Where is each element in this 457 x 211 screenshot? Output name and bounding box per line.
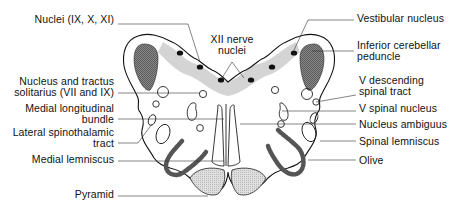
label-line: Nuclei (IX, X, XI): [35, 14, 114, 25]
label-line: Vestibular nucleus: [357, 13, 444, 24]
label-medial-lemniscus: Medial lemniscus: [32, 154, 114, 165]
label-olive: Olive: [359, 155, 383, 166]
label-line: Olive: [359, 155, 383, 166]
label-line: nuclei: [206, 45, 258, 56]
label-pyramid: Pyramid: [75, 189, 114, 200]
label-line: Medial lemniscus: [32, 154, 114, 165]
label-lateral-spinothalamic-tract: Lateral spinothalamic tract: [13, 127, 114, 149]
label-line: peduncle: [357, 51, 441, 62]
inferior-cerebellar-peduncle-left: [134, 44, 158, 90]
label-line: spinal tract: [359, 86, 424, 97]
label-line: Pyramid: [75, 189, 114, 200]
medial-lemniscus-central: [212, 104, 240, 166]
medulla-cross-section-diagram: Nuclei (IX, X, XI) Nucleus and tractus s…: [0, 0, 457, 211]
label-nucleus-tractus-solitarius: Nucleus and tractus solitarius (VII and …: [14, 76, 114, 98]
label-line: tract: [13, 138, 114, 149]
label-line: solitarius (VII and IX): [14, 87, 114, 98]
pyramid-left: [190, 168, 225, 195]
label-vestibular-nucleus: Vestibular nucleus: [357, 13, 444, 24]
olive-right: [268, 130, 303, 174]
label-medial-longitudinal-bundle: Medial longitudinal bundle: [25, 103, 114, 125]
label-v-descending-spinal-tract: V descending spinal tract: [359, 75, 424, 97]
label-v-spinal-nucleus: V spinal nucleus: [359, 103, 437, 114]
label-spinal-lemniscus: Spinal lemniscus: [359, 136, 439, 147]
label-xii-nerve-nuclei: XII nerve nuclei: [206, 34, 258, 56]
label-line: bundle: [25, 114, 114, 125]
label-nucleus-ambiguus: Nucleus ambiguus: [359, 119, 447, 130]
label-nuclei-ix-x-xi: Nuclei (IX, X, XI): [35, 14, 114, 25]
label-line: V spinal nucleus: [359, 103, 437, 114]
label-line: Spinal lemniscus: [359, 136, 439, 147]
pyramid-right: [231, 168, 266, 195]
label-line: Nucleus ambiguus: [359, 119, 447, 130]
small-structures: [147, 86, 320, 145]
label-inferior-cerebellar-peduncle: Inferior cerebellar peduncle: [357, 40, 441, 62]
